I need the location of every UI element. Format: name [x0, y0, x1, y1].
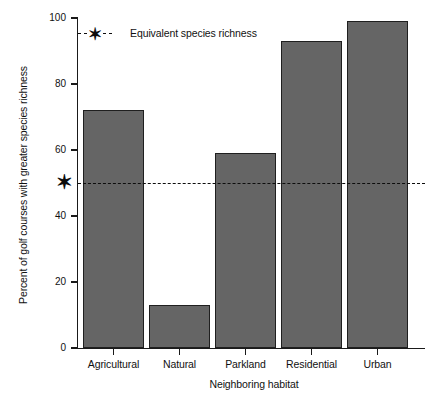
y-axis-tick — [71, 215, 77, 216]
y-axis-tick — [71, 17, 77, 18]
x-axis-title: Neighboring habitat — [83, 378, 425, 390]
x-axis-tick — [179, 349, 180, 355]
legend-dash-right — [103, 33, 112, 34]
x-axis-tick — [245, 349, 246, 355]
y-axis-title: Percent of golf courses with greater spe… — [12, 20, 34, 350]
y-axis-tick-label: 40 — [36, 211, 66, 221]
legend-label: Equivalent species richness — [130, 27, 257, 39]
bar-residential — [281, 41, 342, 348]
y-axis-tick-label: 0 — [36, 343, 66, 353]
x-axis-tick-label: Urban — [328, 358, 428, 370]
y-axis-tick-label: 20 — [36, 277, 66, 287]
bar-chart: Percent of golf courses with greater spe… — [0, 0, 433, 409]
y-axis-tick — [71, 149, 77, 150]
legend: ✶ Equivalent species richness — [78, 24, 257, 42]
y-axis-tick-label: 100 — [36, 13, 66, 23]
y-axis-title-text: Percent of golf courses with greater spe… — [17, 66, 29, 304]
equivalent-richness-reference-line — [78, 183, 425, 184]
y-axis-tick-label: 60 — [36, 145, 66, 155]
bar-natural — [149, 305, 210, 348]
y-axis-tick — [71, 281, 77, 282]
legend-dash-left — [78, 33, 87, 34]
bar-urban — [347, 21, 408, 348]
x-axis-tick — [377, 349, 378, 355]
y-axis-tick-label: 80 — [36, 79, 66, 89]
y-axis-tick — [71, 83, 77, 84]
y-axis-tick — [71, 347, 77, 348]
x-axis-tick — [311, 349, 312, 355]
x-axis-line — [77, 348, 425, 349]
asterisk-icon: ✶ — [56, 172, 73, 192]
x-axis-tick — [113, 349, 114, 355]
bar-agricultural — [83, 110, 144, 348]
legend-asterisk-icon: ✶ — [88, 26, 102, 43]
